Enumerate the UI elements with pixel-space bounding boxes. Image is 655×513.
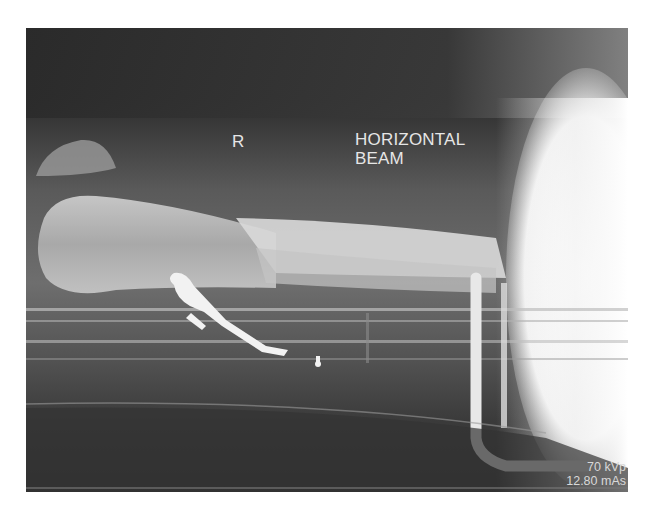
projection-label-line2: BEAM [355,149,465,168]
projection-label: HORIZONTAL BEAM [355,130,465,168]
xray-film: R HORIZONTAL BEAM 70 kVp 12.80 mAs [26,28,628,492]
side-marker-label: R [232,132,244,151]
xray-image [26,28,628,492]
exposure-settings: 70 kVp 12.80 mAs [566,460,626,488]
exposure-kvp: 70 kVp [566,460,626,474]
projection-label-line1: HORIZONTAL [355,130,465,149]
exposure-mas: 12.80 mAs [566,474,626,488]
